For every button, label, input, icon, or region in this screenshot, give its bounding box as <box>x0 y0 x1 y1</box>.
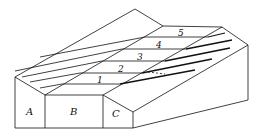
valley-left-line <box>45 26 163 95</box>
bed-label-4: 4 <box>155 40 162 50</box>
block-outline <box>15 9 248 128</box>
bed-label-1: 1 <box>97 75 103 85</box>
a-top-edge <box>15 77 45 95</box>
bed-1-right <box>120 70 195 84</box>
block-diagram: A B C 1 2 3 4 5 <box>0 0 263 139</box>
front-face-outline <box>15 77 133 128</box>
bed-5-left <box>40 37 145 57</box>
bed-label-3: 3 <box>137 52 143 62</box>
dashed-projection <box>148 72 165 74</box>
bed-3-right <box>165 48 230 61</box>
bed-2-left <box>30 73 80 82</box>
strata-lines <box>15 33 232 88</box>
face-label-b: B <box>69 106 77 117</box>
back-edge <box>163 26 248 45</box>
bed-label-5: 5 <box>178 28 184 38</box>
face-label-a: A <box>25 106 33 117</box>
bed-4-right <box>186 40 232 49</box>
bed-label-2: 2 <box>117 64 124 74</box>
right-face-edge <box>133 45 248 128</box>
face-label-c: C <box>112 108 120 119</box>
